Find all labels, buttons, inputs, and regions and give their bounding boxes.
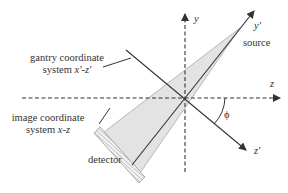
- image-label-line2: system x-z: [6, 124, 90, 136]
- image-leader-line: [99, 108, 110, 124]
- image-coordinate-label: image coordinate system x-z: [6, 112, 90, 136]
- z-axis-label: z: [270, 78, 274, 90]
- gantry-label-line1: gantry coordinate: [26, 52, 108, 64]
- ct-geometry-diagram: [0, 0, 288, 193]
- angle-phi-label: ϕ: [224, 109, 230, 121]
- z-prime-axis-label: z': [254, 145, 260, 157]
- y-axis-label: y: [194, 13, 199, 25]
- gantry-coordinate-label: gantry coordinate system x'-z': [26, 52, 108, 76]
- y-prime-axis-label: y': [254, 20, 261, 32]
- image-label-line1: image coordinate: [6, 112, 90, 124]
- source-label: source: [243, 37, 270, 49]
- xray-fan-beam: [104, 28, 240, 173]
- detector-label: detector: [88, 154, 122, 166]
- gantry-label-line2: system x'-z': [26, 64, 108, 76]
